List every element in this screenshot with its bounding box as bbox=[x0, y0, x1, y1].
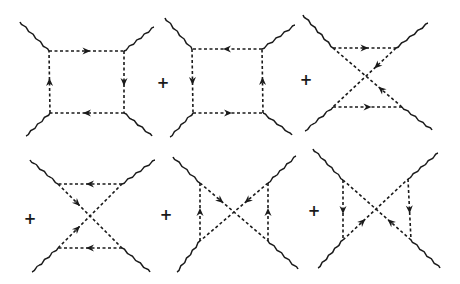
arrow-icon bbox=[197, 208, 204, 216]
external-wavy-leg bbox=[177, 241, 200, 272]
external-wavy-leg bbox=[411, 240, 440, 268]
external-wavy-leg bbox=[26, 113, 50, 136]
external-wavy-leg bbox=[30, 160, 58, 184]
external-wavy-leg bbox=[268, 156, 296, 183]
external-wavy-leg bbox=[165, 18, 192, 49]
arrow-icon bbox=[245, 195, 253, 203]
arrow-icon bbox=[223, 46, 231, 53]
external-wavy-leg bbox=[402, 107, 432, 130]
feynman-diagrams-canvas bbox=[0, 0, 460, 284]
diagram-1 bbox=[20, 22, 154, 136]
plus-sign: + bbox=[157, 76, 170, 91]
external-wavy-leg bbox=[303, 15, 333, 48]
arrow-icon bbox=[72, 198, 80, 206]
plus-sign: + bbox=[24, 212, 37, 227]
external-wavy-leg bbox=[268, 241, 298, 269]
plus-sign: + bbox=[160, 208, 173, 223]
diagram-5 bbox=[173, 156, 298, 272]
arrow-icon bbox=[224, 110, 232, 117]
external-wavy-leg bbox=[262, 25, 295, 49]
external-wavy-leg bbox=[305, 107, 333, 131]
external-wavy-leg bbox=[170, 113, 193, 137]
external-wavy-leg bbox=[122, 160, 155, 184]
diagram-3 bbox=[303, 15, 432, 131]
external-wavy-leg bbox=[318, 240, 343, 268]
arrow-icon bbox=[364, 104, 372, 111]
external-wavy-leg bbox=[124, 113, 152, 136]
external-wavy-leg bbox=[124, 27, 154, 51]
arrow-icon bbox=[215, 195, 223, 203]
arrow-icon bbox=[340, 206, 347, 214]
arrow-icon bbox=[72, 226, 80, 234]
arrow-icon bbox=[378, 87, 386, 95]
diagram-6 bbox=[313, 149, 440, 268]
diagram-4 bbox=[30, 160, 155, 272]
external-wavy-leg bbox=[313, 149, 343, 180]
external-wavy-leg bbox=[408, 153, 438, 179]
plus-sign: + bbox=[308, 204, 321, 219]
external-wavy-leg bbox=[32, 248, 58, 272]
arrow-icon bbox=[388, 219, 396, 227]
external-wavy-leg bbox=[263, 113, 292, 135]
arrow-icon bbox=[265, 208, 272, 216]
external-wavy-leg bbox=[122, 248, 150, 272]
external-wavy-leg bbox=[396, 23, 428, 48]
diagram-2 bbox=[165, 18, 295, 137]
plus-sign: + bbox=[300, 73, 313, 88]
external-wavy-leg bbox=[20, 22, 49, 51]
external-wavy-leg bbox=[173, 157, 200, 183]
